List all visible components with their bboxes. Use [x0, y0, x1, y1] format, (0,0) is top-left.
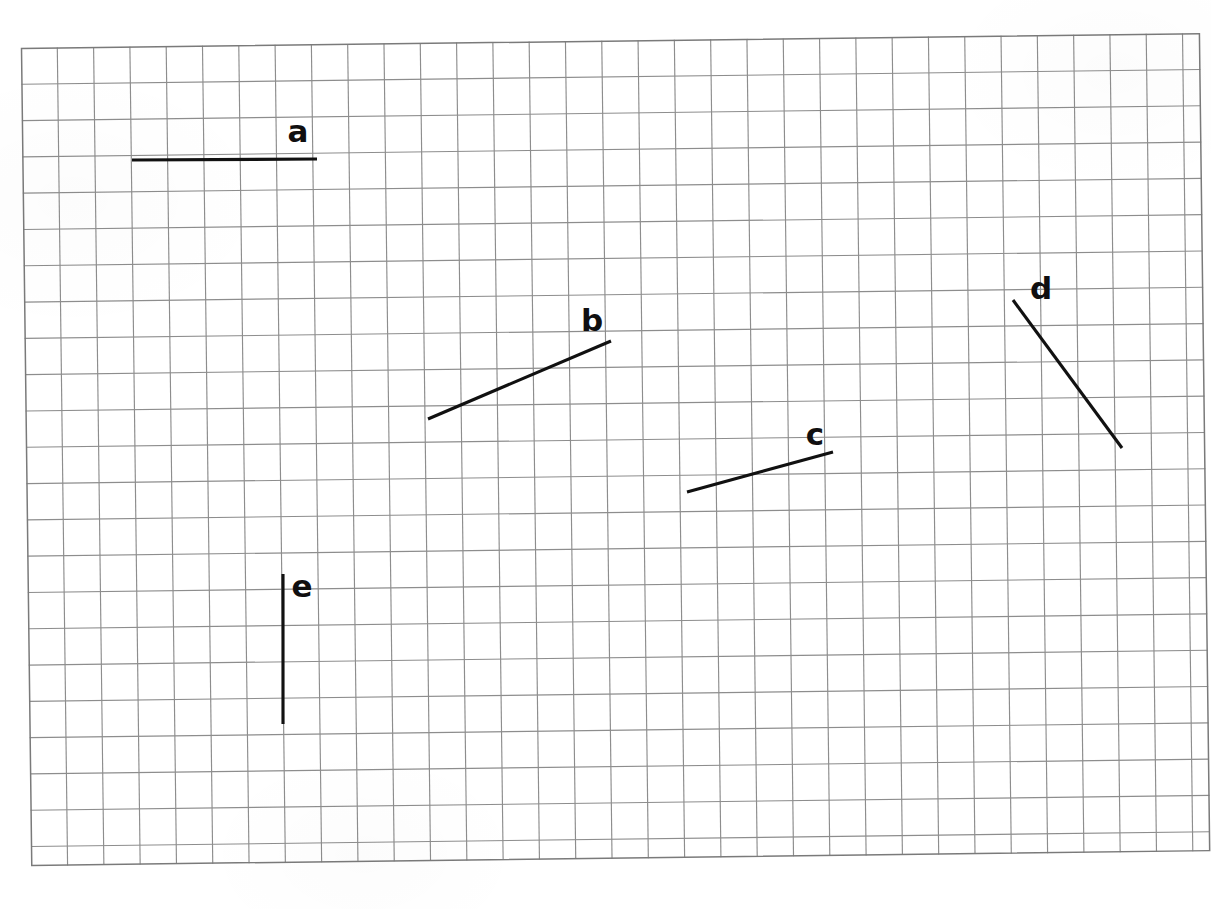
- line-segment-e: [281, 574, 285, 724]
- grid-paper-sheet: [21, 33, 1210, 866]
- segment-label-d: d: [1030, 273, 1052, 304]
- worksheet-canvas: abcde: [0, 0, 1211, 909]
- segment-label-e: e: [291, 571, 312, 602]
- line-segment-c: [687, 452, 834, 492]
- segment-label-c: c: [806, 419, 824, 450]
- line-segments-layer: [21, 33, 1210, 866]
- segment-label-a: a: [288, 116, 309, 147]
- line-segment-b: [427, 341, 612, 419]
- segment-label-b: b: [581, 305, 603, 336]
- line-segment-a: [132, 158, 317, 162]
- line-segment-d: [1013, 299, 1122, 450]
